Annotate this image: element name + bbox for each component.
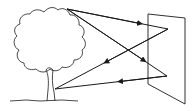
ground-line bbox=[10, 100, 78, 101]
light-rays bbox=[55, 9, 168, 89]
ray-4-arrow bbox=[120, 76, 167, 82]
tree-trunk bbox=[46, 70, 55, 101]
ray-3-arrow bbox=[106, 29, 168, 62]
light-reflection-diagram bbox=[0, 0, 195, 111]
tree-canopy bbox=[14, 8, 85, 72]
reflective-panel bbox=[148, 14, 185, 104]
